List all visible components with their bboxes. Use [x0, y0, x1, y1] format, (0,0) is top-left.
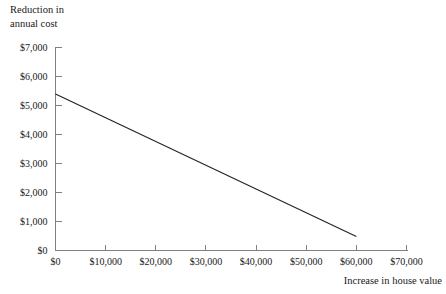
- y-tick-label: $5,000: [0, 100, 48, 111]
- chart-figure: Reduction inannual cost $0$1,000$2,000$3…: [0, 0, 446, 294]
- y-tick-label: $0: [0, 245, 48, 256]
- y-tick-label: $7,000: [0, 42, 48, 53]
- plot-area: [0, 0, 446, 294]
- y-tick-label: $4,000: [0, 129, 48, 140]
- y-tick-label: $3,000: [0, 158, 48, 169]
- y-tick-label: $6,000: [0, 71, 48, 82]
- data-series: [56, 94, 357, 237]
- data-line: [56, 94, 357, 237]
- y-tick-label: $1,000: [0, 216, 48, 227]
- x-tick-label: $70,000: [377, 256, 437, 267]
- axis-lines: [56, 47, 408, 251]
- y-tick-label: $2,000: [0, 187, 48, 198]
- x-axis-title: Increase in house value: [344, 274, 442, 287]
- tick-marks: [56, 48, 407, 251]
